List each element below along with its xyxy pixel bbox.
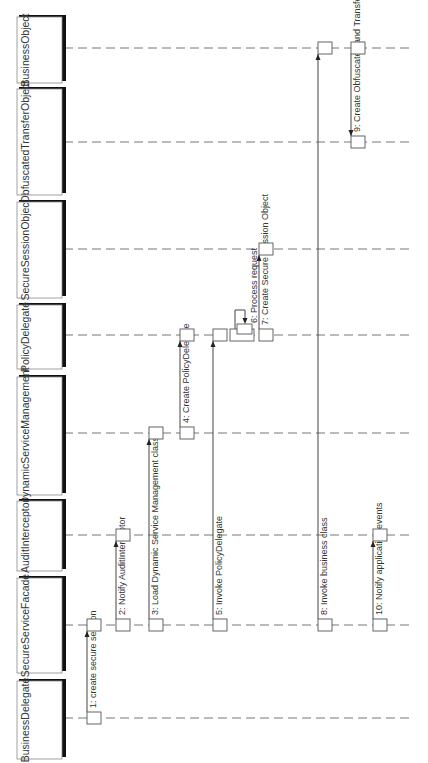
lifeline-label: ObfuscatedTransferObject <box>19 81 31 204</box>
activation-target <box>259 243 273 255</box>
activation-source <box>180 427 194 439</box>
message-label: 7: Create Secure Session Object <box>260 193 270 325</box>
lifeline-header-secure-session-object[interactable]: SecureSessionObject <box>17 199 66 300</box>
message-label: 8: Invoke business class <box>319 517 329 615</box>
lifeline-label: SecureSessionObject <box>19 199 31 300</box>
message-label: 9: Create Obfuscated and Transfer Object <box>352 0 362 132</box>
message-8[interactable]: 8: Invoke business class <box>316 54 330 619</box>
activation-source <box>149 619 163 631</box>
message-label: 10: Notify application events <box>374 502 384 615</box>
lifeline-header-business-delegate[interactable]: BusinessDelegate <box>17 678 66 763</box>
activation-source <box>318 619 332 631</box>
message-3[interactable]: 3: Load Dynamic Service Management class <box>147 436 161 619</box>
activations-layer <box>87 42 387 724</box>
arrowhead-icon <box>211 341 216 347</box>
activation-target <box>318 42 332 54</box>
lifeline-label: DynamicServiceManagement <box>19 367 31 504</box>
message-label: 3: Load Dynamic Service Management class <box>150 436 160 615</box>
arrowhead-icon <box>316 54 321 60</box>
activation-target <box>87 619 101 631</box>
messages-layer: 1: create secure session2: Notify AuditI… <box>85 0 385 712</box>
lifeline-label: SecureServiceFacade <box>19 574 31 677</box>
headers-layer: BusinessObjectObfuscatedTransferObjectSe… <box>17 13 66 762</box>
activation-target <box>351 136 365 148</box>
activation-source <box>259 329 273 341</box>
lifeline-header-secure-service-facade[interactable]: SecureServiceFacade <box>17 574 66 677</box>
activation-target <box>373 529 387 541</box>
message-5[interactable]: 5: Invoke PolicyDelegate <box>211 341 225 619</box>
lifeline-label: BusinessObject <box>19 13 31 86</box>
sequence-diagram: 1: create secure session2: Notify AuditI… <box>0 0 428 763</box>
lifeline-label: BusinessDelegate <box>19 678 31 763</box>
activation-source <box>373 619 387 631</box>
lifeline-header-policy-delegate[interactable]: PolicyDelegate <box>17 302 66 372</box>
activation-source <box>116 619 130 631</box>
lifeline-header-business-object[interactable]: BusinessObject <box>17 13 66 86</box>
lifeline-header-obfuscated-transfer-object[interactable]: ObfuscatedTransferObject <box>17 81 66 204</box>
message-6[interactable]: 6: Process request <box>235 247 259 329</box>
lifeline-header-dynamic-service-management[interactable]: DynamicServiceManagement <box>17 367 66 504</box>
lifeline-label: AuditInterceptor <box>19 498 31 573</box>
activation-source <box>351 42 365 54</box>
arrowhead-icon <box>243 318 248 324</box>
activation-source <box>213 619 227 631</box>
message-7[interactable]: 7: Create Secure Session Object <box>257 193 271 329</box>
activation-target <box>213 329 227 341</box>
activation-nested <box>237 324 252 334</box>
message-label: 5: Invoke PolicyDelegate <box>214 516 224 615</box>
activation-target <box>180 329 194 341</box>
message-10[interactable]: 10: Notify application events <box>371 502 385 619</box>
activation-source <box>87 712 101 724</box>
lifeline-label: PolicyDelegate <box>19 302 31 372</box>
activation-target <box>116 529 130 541</box>
message-9[interactable]: 9: Create Obfuscated and Transfer Object <box>349 0 363 136</box>
lifeline-header-audit-interceptor[interactable]: AuditInterceptor <box>17 498 66 573</box>
activation-target <box>149 427 163 439</box>
